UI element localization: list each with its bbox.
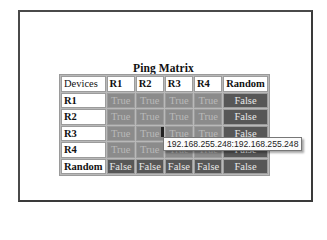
column-header-r2: R2 [136, 76, 164, 92]
matrix-cell[interactable]: True [194, 93, 222, 109]
row-header-r3: R3 [61, 126, 106, 142]
matrix-cell[interactable]: False [194, 159, 222, 175]
matrix-cell[interactable]: True [107, 109, 135, 125]
row-header-r4: R4 [61, 142, 106, 158]
header-row: Devices R1 R2 R3 R4 Random [61, 76, 268, 92]
column-header-r1: R1 [107, 76, 135, 92]
page-title: Ping Matrix [0, 62, 327, 74]
matrix-cell[interactable]: False [165, 159, 193, 175]
matrix-cell[interactable]: True [107, 93, 135, 109]
row-header-r1: R1 [61, 93, 106, 109]
matrix-cell[interactable]: True [194, 109, 222, 125]
matrix-cell[interactable]: False [107, 159, 135, 175]
matrix-cell[interactable]: True [165, 93, 193, 109]
ip-tooltip: 192.168.255.248:192.168.255.248 [163, 137, 302, 151]
matrix-cell[interactable]: True [107, 126, 135, 142]
table-row: R1 True True True True False [61, 93, 268, 109]
matrix-cell[interactable]: False [136, 159, 164, 175]
column-header-devices: Devices [61, 76, 106, 92]
text-cursor-icon [161, 127, 164, 137]
matrix-cell[interactable]: False [223, 159, 268, 175]
matrix-cell[interactable]: False [223, 109, 268, 125]
table-row: Random False False False False False [61, 159, 268, 175]
row-header-r2: R2 [61, 109, 106, 125]
ping-matrix-table: Devices R1 R2 R3 R4 Random R1 True True … [59, 74, 270, 176]
column-header-r3: R3 [165, 76, 193, 92]
row-header-random: Random [61, 159, 106, 175]
matrix-cell[interactable]: True [136, 126, 164, 142]
matrix-cell[interactable]: True [136, 93, 164, 109]
matrix-cell[interactable]: False [223, 93, 268, 109]
column-header-r4: R4 [194, 76, 222, 92]
matrix-cell[interactable]: True [136, 142, 164, 158]
table-row: R2 True True True True False [61, 109, 268, 125]
column-header-random: Random [223, 76, 268, 92]
matrix-cell[interactable]: True [136, 109, 164, 125]
matrix-cell[interactable]: True [107, 142, 135, 158]
matrix-cell[interactable]: True [165, 109, 193, 125]
